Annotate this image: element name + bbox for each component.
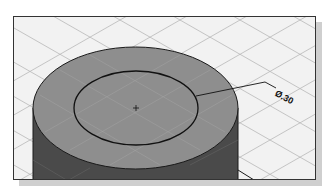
dimension-label: Ø.30: [273, 88, 295, 106]
viewport-frame: Ø.30: [13, 16, 316, 180]
cad-view: Ø.30: [14, 17, 315, 179]
